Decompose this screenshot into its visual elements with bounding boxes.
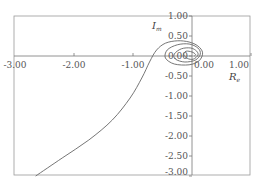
y-axis-ticks: 1.000.500.00-0.50-1.00-1.50-2.00-2.50-3.… bbox=[165, 11, 192, 177]
y-tick-label: -2.50 bbox=[165, 151, 188, 161]
x-tick-label: 1.00 bbox=[229, 60, 249, 70]
y-tick-label: 1.00 bbox=[168, 11, 188, 21]
y-tick-label: -1.00 bbox=[165, 91, 188, 101]
y-tick-label: -2.00 bbox=[165, 131, 188, 141]
y-tick-label: -3.00 bbox=[165, 167, 188, 177]
y-tick-label: -0.50 bbox=[165, 71, 188, 81]
y-axis-title: Im bbox=[151, 20, 162, 32]
x-axis-title: Re bbox=[228, 71, 241, 83]
y-tick-label: 0.00 bbox=[168, 51, 188, 61]
y-tick-label: -1.50 bbox=[165, 111, 188, 121]
x-tick-label: -2.00 bbox=[62, 60, 85, 70]
x-tick-label: -1.00 bbox=[121, 60, 144, 70]
y-tick-label: 0.50 bbox=[168, 31, 188, 41]
x-tick-label: 0.00 bbox=[194, 60, 214, 70]
x-tick-label: -3.00 bbox=[3, 60, 26, 70]
x-axis-ticks: -3.00-2.00-1.000.001.00 bbox=[3, 53, 251, 70]
nyquist-plot: -3.00-2.00-1.000.001.00 1.000.500.00-0.5… bbox=[0, 0, 262, 189]
